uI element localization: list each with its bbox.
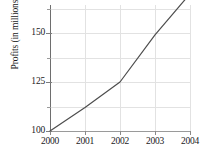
x-tick-label-2003: 2003 — [138, 136, 172, 146]
y-axis-title: Profits (in millions) — [10, 0, 20, 88]
gridline-horizontal-125 — [50, 82, 190, 83]
plot-area — [50, 5, 190, 131]
x-tick-label-2004: 2004 — [173, 136, 207, 146]
y-tick-minor-162-5 — [47, 58, 51, 59]
x-tick-2003 — [155, 131, 156, 135]
y-tick-150 — [46, 33, 52, 34]
y-tick-label-100: 100 — [15, 126, 45, 136]
gridline-horizontal-162-5 — [50, 9, 190, 10]
gridline-horizontal-137-5 — [50, 58, 190, 59]
x-tick-label-2000: 2000 — [33, 136, 67, 146]
x-tick-2001 — [85, 131, 86, 135]
y-axis-line — [50, 5, 51, 132]
x-tick-2004 — [190, 131, 191, 135]
line-chart: 150 125 100 2000 2001 2002 2003 2004 Pro… — [0, 0, 211, 155]
gridline-vertical-2003 — [155, 5, 156, 131]
y-tick-minor-175 — [47, 9, 51, 10]
y-tick-minor-137-5 — [47, 107, 51, 108]
gridline-vertical-2002 — [120, 5, 121, 131]
x-tick-2000 — [50, 131, 51, 135]
y-tick-100 — [46, 131, 52, 132]
gridline-vertical-2001 — [85, 5, 86, 131]
gridline-vertical-2004 — [190, 5, 191, 131]
x-tick-2002 — [120, 131, 121, 135]
x-tick-label-2001: 2001 — [68, 136, 102, 146]
gridline-horizontal-112-5 — [50, 107, 190, 108]
gridline-horizontal-150 — [50, 33, 190, 34]
y-tick-125 — [46, 82, 52, 83]
x-tick-label-2002: 2002 — [103, 136, 137, 146]
